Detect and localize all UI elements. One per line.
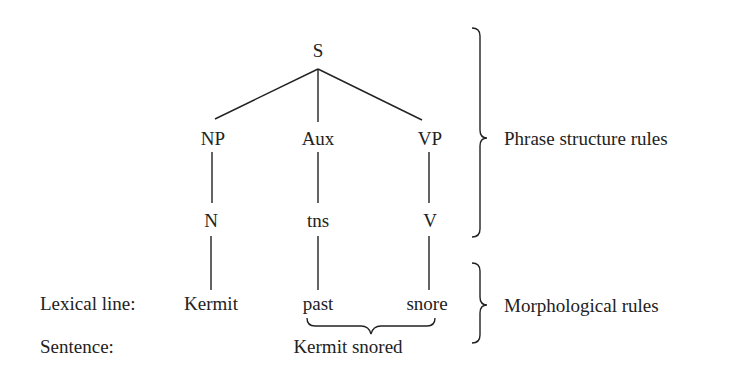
node-np: NP [201, 129, 225, 148]
node-aux: Aux [302, 129, 335, 148]
node-s: S [313, 41, 324, 60]
phrase-structure-label: Phrase structure rules [504, 129, 668, 148]
underbrace [307, 318, 435, 334]
node-n: N [204, 211, 218, 230]
node-v: V [423, 211, 437, 230]
word-snore: snore [406, 294, 447, 313]
tree-lines [0, 0, 753, 376]
word-past: past [303, 294, 334, 313]
word-kermit: Kermit [184, 294, 238, 313]
sentence-label: Sentence: [40, 337, 114, 356]
lexical-line-label: Lexical line: [40, 294, 135, 313]
node-vp: VP [418, 129, 442, 148]
morph-brace [472, 263, 487, 343]
node-tns: tns [307, 211, 329, 230]
phrase-brace [472, 28, 487, 237]
morphological-label: Morphological rules [504, 296, 659, 315]
sentence-text: Kermit snored [293, 337, 402, 356]
